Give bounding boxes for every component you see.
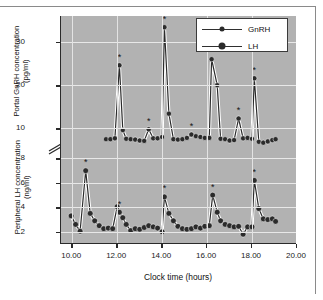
y-axis-label-lh: Peripheral LH concentration (ng/ml) (13, 135, 31, 239)
y-tick-label: 4 (0, 203, 25, 211)
x-tick-label: 18.00 (233, 251, 269, 260)
data-point (83, 168, 89, 174)
data-point (209, 57, 214, 62)
x-tick-mark (251, 244, 252, 248)
pulse-asterisk: * (147, 116, 151, 126)
y-tick-mark (56, 128, 60, 129)
y-tick-label: 30 (0, 38, 25, 46)
x-tick-mark (116, 244, 117, 248)
y-tick-label: 8 (0, 154, 25, 162)
data-point (273, 137, 278, 142)
y-tick-mark (56, 158, 60, 159)
gridline-x (117, 16, 118, 243)
y-tick-label: 20 (0, 81, 25, 89)
x-tick-label: 10.00 (53, 251, 89, 260)
data-point (142, 138, 147, 143)
data-point (273, 219, 279, 225)
pulse-asterisk: * (253, 65, 257, 75)
data-point (120, 215, 126, 221)
data-point (166, 211, 172, 217)
legend-item-lh: LH (202, 40, 282, 52)
y-tick-label: 10 (0, 124, 25, 132)
y-tick-mark (56, 232, 60, 233)
x-tick-label: 16.00 (188, 251, 224, 260)
y-tick-label: 2 (0, 228, 25, 236)
y-tick-mark (56, 85, 60, 86)
gridline-y (61, 207, 296, 208)
data-point (236, 223, 242, 229)
legend-item-gnrh: GnRH (202, 23, 282, 35)
legend-marker-lh (202, 41, 242, 52)
x-tick-mark (206, 244, 207, 248)
gridline-y (61, 232, 296, 233)
pulse-asterisk: * (118, 52, 122, 62)
gridline-y (61, 158, 296, 159)
gridline-y (61, 128, 296, 129)
data-point (214, 209, 220, 215)
data-point (210, 192, 216, 198)
gridline-x (72, 16, 73, 243)
data-point (184, 135, 189, 140)
data-point (92, 218, 98, 224)
chart-legend: GnRH LH (196, 18, 288, 52)
x-tick-label: 12.00 (98, 251, 134, 260)
pulse-asterisk: * (190, 121, 194, 131)
pulse-asterisk: * (237, 105, 241, 115)
data-point (123, 222, 129, 228)
legend-marker-gnrh (202, 24, 242, 35)
legend-label-lh: LH (248, 42, 258, 51)
gridline-y (61, 85, 296, 86)
x-tick-mark (71, 244, 72, 248)
y-tick-mark (56, 183, 60, 184)
data-point (166, 111, 171, 116)
pulse-asterisk: * (163, 183, 167, 193)
data-point (236, 116, 241, 121)
data-point (110, 226, 116, 232)
pulse-asterisk: * (163, 16, 167, 24)
gridline-x (162, 16, 163, 243)
data-point (73, 222, 79, 228)
pulse-asterisk: * (253, 167, 257, 177)
data-point (171, 218, 177, 224)
data-point (87, 211, 93, 217)
legend-label-gnrh: GnRH (248, 25, 270, 34)
y-axis-label-gnrh: Portal GnRH concentration (pg/ml) (12, 17, 30, 125)
y-tick-label: 6 (0, 179, 25, 187)
x-tick-label: 14.00 (143, 251, 179, 260)
gridline-y (61, 183, 296, 184)
hormone-pulse-chart: Portal GnRH concentration (pg/ml) Periph… (0, 0, 323, 300)
data-point (232, 138, 237, 143)
series-lh (68, 168, 278, 237)
x-tick-mark (161, 244, 162, 248)
x-tick-label: 20.00 (278, 251, 314, 260)
x-tick-mark (296, 244, 297, 248)
x-axis-label: Clock time (hours) (60, 272, 296, 282)
y-tick-mark (56, 207, 60, 208)
y-tick-mark (56, 42, 60, 43)
